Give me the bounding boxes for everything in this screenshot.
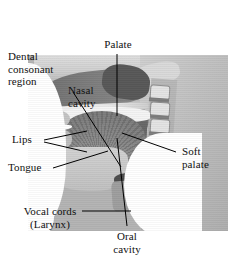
label-oral-cavity: Oral cavity (104, 230, 150, 255)
label-palate: Palate (92, 38, 144, 51)
label-lips: Lips (12, 133, 32, 146)
label-nasal-cavity: Nasal cavity (68, 84, 95, 109)
label-tongue: Tongue (8, 161, 41, 174)
label-soft-palate: Soft palate (182, 145, 209, 170)
label-vocal-cords-larynx: Vocal cords (Larynx) (18, 205, 82, 230)
label-dental-consonant-region: Dental consonant region (8, 50, 54, 88)
anatomy-figure-root: Dental consonant region Palate Nasal cav… (0, 0, 228, 260)
